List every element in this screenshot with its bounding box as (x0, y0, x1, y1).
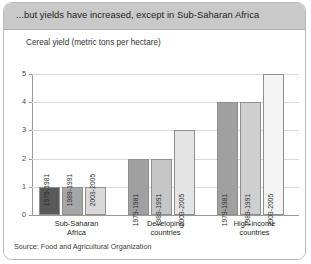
plot-area: 012345 1979-19811989-19912003-20051979-1… (4, 30, 306, 260)
y-tick-mark (29, 74, 32, 75)
category-label: Sub-SaharanAfrica (32, 219, 121, 237)
bar: 2003-2005 (174, 130, 195, 215)
bar: 1989-1991 (240, 102, 261, 215)
y-tick-label: 5 (8, 70, 26, 77)
bar-label: 1979-1981 (43, 174, 50, 206)
panel-header: ...but yields have increased, except in … (4, 3, 305, 30)
y-tick-label: 3 (8, 126, 26, 133)
category-label: High-incomecountries (210, 219, 299, 237)
source-note: Source: Food and Agricultural Organizati… (14, 242, 151, 251)
category-label-line: Africa (32, 228, 121, 237)
bar: 1979-1981 (128, 159, 149, 215)
category-label-line: High-income (210, 219, 299, 228)
y-tick-label: 0 (8, 211, 26, 218)
category-label-line: Developing (121, 219, 210, 228)
gridline (32, 74, 299, 75)
bar-label: 1989-1991 (66, 174, 73, 206)
chart-panel: ...but yields have increased, except in … (3, 2, 306, 260)
y-tick-mark (29, 187, 32, 188)
x-axis-line (32, 215, 299, 216)
panel-title: ...but yields have increased, except in … (16, 9, 259, 20)
bar: 1979-1981 (217, 102, 238, 215)
y-tick-mark (29, 159, 32, 160)
category-label-line: Sub-Saharan (32, 219, 121, 228)
panel-body: Cereal yield (metric tons per hectare) 0… (4, 30, 305, 259)
y-tick-mark (29, 215, 32, 216)
bar: 2003-2005 (263, 74, 284, 215)
category-label: Developingcountries (121, 219, 210, 237)
y-tick-label: 2 (8, 155, 26, 162)
category-label-line: countries (210, 228, 299, 237)
y-tick-mark (29, 102, 32, 103)
bar: 1989-1991 (151, 159, 172, 215)
y-tick-label: 4 (8, 98, 26, 105)
bar-label: 2003-2005 (89, 174, 96, 206)
category-label-line: countries (121, 228, 210, 237)
y-tick-mark (29, 130, 32, 131)
y-tick-label: 1 (8, 183, 26, 190)
